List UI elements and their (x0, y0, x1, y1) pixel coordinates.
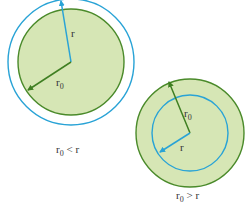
figure-r0-greater-than-r: r0 r r0 > r (136, 79, 244, 204)
diagram: r r0 r0 < r r0 r r0 > r (0, 0, 245, 205)
caption-r0-less-than-r: r0 < r (56, 143, 79, 158)
figure-r0-less-than-r: r r0 r0 < r (8, 0, 134, 158)
caption-r0-greater-than-r: r0 > r (176, 189, 199, 204)
r-label: r (71, 27, 75, 39)
r-label: r (180, 141, 184, 153)
